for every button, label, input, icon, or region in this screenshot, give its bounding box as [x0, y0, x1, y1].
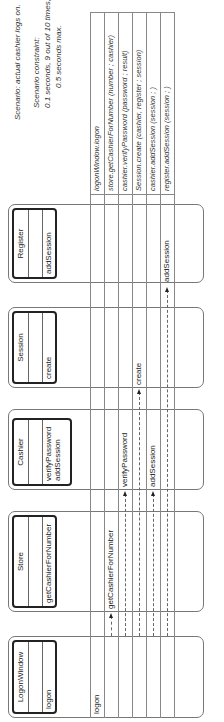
class-card-register: Register addSession: [12, 208, 57, 279]
class-attributes: [29, 420, 43, 484]
class-card-session: Session create: [12, 311, 57, 384]
script-row: Session.create (cashier, register ; sess…: [132, 50, 146, 191]
class-card-store: Store getCashierForNumber: [12, 515, 57, 608]
message-line-getcashier: [111, 616, 112, 636]
class-attributes: [29, 517, 43, 606]
class-name: Cashier: [14, 420, 29, 484]
class-card-logonwindow: LogonWindow logon: [12, 640, 57, 714]
class-operation: getCashierForNumber: [44, 520, 53, 603]
script-table: logonWindow.logon store.getCashierForNum…: [90, 12, 174, 195]
arrowhead-icon: [109, 613, 113, 618]
scenario-note: Scenario: actual cashier logs on. Scenar…: [12, 10, 64, 120]
message-label-getcashier: getCashierForNumber: [104, 530, 118, 609]
arrowhead-icon: [137, 389, 141, 394]
scenario-constraint-label: Scenario constraint:: [31, 10, 42, 120]
message-label-logon: logon: [90, 694, 104, 714]
message-line-create: [139, 392, 140, 636]
arrowhead-icon: [151, 491, 155, 496]
script-row: register.addSession (session ; ): [160, 86, 174, 191]
class-operation: addSession: [44, 213, 53, 274]
script-row: cashier.verifyPassword (password ; resul…: [118, 50, 132, 191]
class-attributes: [29, 210, 43, 277]
message-line-verifypassword: [125, 494, 126, 636]
class-attributes: [29, 642, 43, 712]
class-operation: create: [44, 316, 53, 379]
arrowhead-icon: [165, 287, 169, 292]
script-row: store.getCashierForNumber (number ; cash…: [104, 35, 118, 191]
arrowhead-icon: [123, 491, 127, 496]
class-attributes: [29, 313, 43, 382]
class-name: Register: [14, 210, 29, 277]
class-operation: logon: [44, 645, 53, 709]
message-label-create: create: [132, 363, 146, 385]
class-operation: verifyPassword: [44, 423, 53, 481]
message-line-cashier-addsession: [153, 494, 154, 636]
class-name: Store: [14, 517, 29, 606]
class-name: LogonWindow: [14, 642, 29, 712]
scenario-constraint-line1: 0.1 seconds, 9 out of 10 times,: [42, 10, 53, 120]
script-row: cashier.addSession (session ; ): [146, 87, 160, 191]
scenario-constraint-line2: 0.5 seconds max.: [53, 10, 64, 120]
scenario-title: Scenario: actual cashier logs on.: [12, 10, 23, 120]
message-label-register-addsession: addSession: [160, 240, 174, 282]
message-label-cashier-addsession: addSession: [146, 445, 160, 487]
script-row: logonWindow.logon: [90, 126, 104, 191]
message-line-register-addsession: [167, 290, 168, 636]
class-operation: addSession: [53, 423, 62, 481]
class-card-cashier: Cashier verifyPassword addSession: [12, 418, 72, 486]
sequence-diagram-page: Scenario: actual cashier logs on. Scenar…: [0, 0, 224, 722]
message-label-verifypassword: verifyPassword: [118, 433, 132, 487]
class-name: Session: [14, 313, 29, 382]
